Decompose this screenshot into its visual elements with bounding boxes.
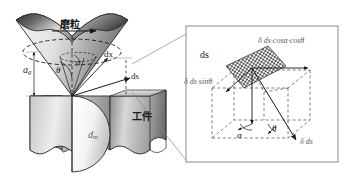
inset-frame xyxy=(186,26,338,162)
ds-label-left: ds xyxy=(131,72,139,81)
angle-alpha-inset: α xyxy=(237,131,242,140)
component-cos-label: δ ds·cosα·cosθ xyxy=(258,37,304,45)
depth-label-ag: ag xyxy=(23,65,31,76)
component-delta-label: δ ds xyxy=(300,138,313,146)
figure-canvas: 磨粒 工件 ag dm θ α dx ds ds δ ds·cosα·cosθ … xyxy=(0,0,344,192)
angle-theta-inset: θ xyxy=(272,124,276,133)
ds-label-inset: ds xyxy=(200,50,209,60)
workpiece-label: 工件 xyxy=(132,112,152,122)
grain-label: 磨粒 xyxy=(60,20,80,30)
component-sin-label: δ ds·sinθ xyxy=(184,78,212,86)
dx-label-left: dx xyxy=(104,50,113,59)
angle-alpha-left: α xyxy=(76,58,81,67)
angle-theta-left: θ xyxy=(56,66,60,75)
diameter-label-dm: dm xyxy=(88,130,98,141)
diagram-vector-layer xyxy=(0,0,344,192)
